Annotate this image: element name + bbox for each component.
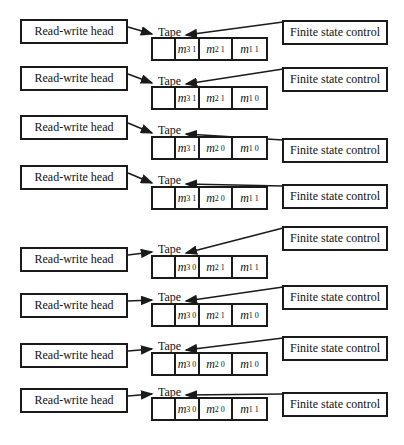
tape: m30m20m11 — [151, 397, 268, 421]
tape-cell: m20 — [200, 188, 233, 208]
head-arrow — [128, 252, 152, 255]
head-arrow — [128, 300, 152, 301]
tape-cell: m31 — [176, 39, 200, 59]
head-arrow — [128, 173, 152, 183]
tape-cell: m20 — [200, 399, 233, 419]
tape-cell: m21 — [200, 39, 233, 59]
read-write-head-box: Read-write head — [20, 66, 128, 91]
tape-cell-empty — [153, 354, 176, 374]
control-arrow — [186, 228, 283, 253]
tape-cell: m10 — [233, 138, 266, 158]
tape-cell: m11 — [233, 188, 266, 208]
finite-state-control-box: Finite state control — [282, 392, 388, 417]
tape-cell: m10 — [233, 354, 266, 374]
tape-cell: m30 — [176, 305, 200, 325]
tape-label: Tape — [158, 124, 181, 136]
finite-state-control-box: Finite state control — [282, 138, 388, 163]
control-arrow — [186, 69, 283, 84]
read-write-head-box: Read-write head — [20, 247, 128, 272]
tape: m31m20m11 — [151, 186, 268, 210]
tape-cell-empty — [153, 399, 176, 419]
tape: m30m21m10 — [151, 303, 268, 327]
tape: m31m21m11 — [151, 37, 268, 61]
head-arrow — [128, 123, 152, 133]
tape: m30m20m10 — [151, 352, 268, 376]
tape-cell: m30 — [176, 257, 200, 277]
read-write-head-box: Read-write head — [20, 165, 128, 190]
control-arrow — [186, 338, 283, 350]
finite-state-control-box: Finite state control — [282, 67, 388, 92]
tape-cell-empty — [153, 138, 176, 158]
tape-label: Tape — [158, 340, 181, 352]
tape-cell-empty — [153, 188, 176, 208]
tape-cell: m31 — [176, 138, 200, 158]
head-arrow — [128, 27, 152, 34]
tape-cell: m11 — [233, 399, 266, 419]
tape-cell-empty — [153, 39, 176, 59]
read-write-head-box: Read-write head — [20, 343, 128, 368]
tape-label: Tape — [158, 291, 181, 303]
finite-state-control-box: Finite state control — [282, 336, 388, 361]
tape-cell: m11 — [233, 257, 266, 277]
finite-state-control-box: Finite state control — [282, 285, 388, 310]
tape-cell: m30 — [176, 399, 200, 419]
finite-state-control-box: Finite state control — [282, 226, 388, 251]
tape-cell: m21 — [200, 257, 233, 277]
finite-state-control-box: Finite state control — [282, 184, 388, 209]
control-arrow — [186, 287, 283, 301]
tape-cell: m10 — [233, 88, 266, 108]
tape-cell: m31 — [176, 88, 200, 108]
tape-cell: m21 — [200, 305, 233, 325]
tape-cell-empty — [153, 88, 176, 108]
tape: m31m20m10 — [151, 136, 268, 160]
tape-label: Tape — [158, 174, 181, 186]
control-arrow — [186, 22, 283, 35]
tape-cell: m20 — [200, 354, 233, 374]
tape-cell: m10 — [233, 305, 266, 325]
finite-state-control-box: Finite state control — [282, 20, 388, 45]
tape-cell-empty — [153, 305, 176, 325]
tape-cell: m21 — [200, 88, 233, 108]
head-arrow — [128, 349, 152, 351]
tape-cell-empty — [153, 257, 176, 277]
head-arrow — [128, 74, 152, 83]
tape-cell: m20 — [200, 138, 233, 158]
control-arrow — [186, 394, 283, 395]
read-write-head-box: Read-write head — [20, 293, 128, 318]
tape: m30m21m11 — [151, 255, 268, 279]
read-write-head-box: Read-write head — [20, 388, 128, 413]
tape: m31m21m10 — [151, 86, 268, 110]
read-write-head-box: Read-write head — [20, 19, 128, 44]
tape-label: Tape — [158, 243, 181, 255]
tape-cell: m11 — [233, 39, 266, 59]
head-arrow — [128, 394, 152, 396]
read-write-head-box: Read-write head — [20, 115, 128, 140]
tape-cell: m31 — [176, 188, 200, 208]
tape-cell: m30 — [176, 354, 200, 374]
